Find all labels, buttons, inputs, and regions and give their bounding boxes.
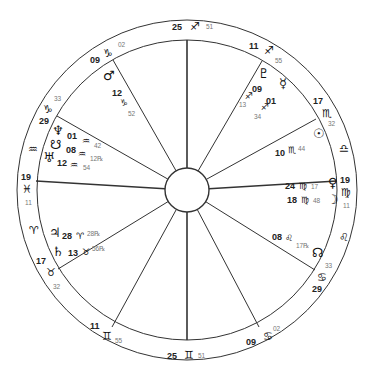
cusp-3-line bbox=[197, 209, 259, 327]
cusp-3-minutes: 02 bbox=[273, 325, 281, 332]
natal-chart-wheel: 25♐︎5111♐︎5517♏︎3219♍︎1129♋︎3309♋︎0225♊︎… bbox=[0, 0, 368, 382]
cusp-11-minutes: 55 bbox=[275, 57, 283, 64]
cusp-6-degree: 17 bbox=[36, 256, 46, 266]
pluto-icon: ♇︎ bbox=[258, 66, 270, 81]
cusp-5-minutes: 55 bbox=[115, 337, 123, 344]
cusp-9-line bbox=[113, 60, 176, 171]
north-node-south-sign-icon: ♒︎ bbox=[78, 149, 86, 159]
cusp-10-minutes: 51 bbox=[206, 23, 214, 30]
north-node-south-minutes: 12℞ bbox=[90, 155, 103, 162]
cusp-2-degree: 29 bbox=[312, 284, 322, 294]
moon-sign-icon: ♍︎ bbox=[301, 195, 309, 205]
neptune-minutes: 42 bbox=[94, 142, 102, 149]
cusp-2-line bbox=[206, 202, 315, 270]
north-node-south-degree: 08 bbox=[66, 145, 76, 155]
cusp-3-sign-icon: ♋︎ bbox=[263, 330, 273, 343]
cusp-3-degree: 09 bbox=[246, 337, 256, 347]
sun-sign-icon: ♏︎ bbox=[288, 145, 296, 155]
cusp-2-sign-icon: ♋︎ bbox=[317, 271, 327, 284]
cusp-12-minutes: 32 bbox=[328, 120, 336, 127]
cusp-11-sign-icon: ♐︎ bbox=[264, 44, 274, 57]
cusp-1-sign-icon: ♍︎ bbox=[341, 186, 351, 199]
jupiter-icon: ♃︎ bbox=[49, 225, 61, 240]
cusp-10-sign-icon: ♐︎ bbox=[190, 20, 200, 33]
cusp-8-minutes: 33 bbox=[54, 95, 62, 102]
jupiter-sign-icon: ♈︎ bbox=[76, 231, 84, 241]
sun-icon: ☉︎ bbox=[313, 126, 325, 141]
cusp-8-degree: 29 bbox=[39, 116, 49, 126]
mars-minutes: 52 bbox=[128, 110, 136, 117]
neptune-sign-icon: ♒︎ bbox=[82, 136, 90, 146]
neptune-degree: 01 bbox=[67, 131, 77, 141]
cusp-6-sign-icon: ♉︎ bbox=[46, 266, 56, 279]
venus-degree: 24 bbox=[285, 181, 295, 191]
cusp-9-minutes: 02 bbox=[118, 41, 126, 48]
libra-ring-icon: ♎︎ bbox=[339, 142, 349, 155]
sun-minutes: 44 bbox=[298, 145, 306, 152]
mars-sign-icon: ♑︎ bbox=[120, 98, 128, 108]
cusp-5-degree: 11 bbox=[90, 321, 100, 331]
leo-ring-icon: ♌︎ bbox=[339, 231, 349, 244]
north-node-icon: ☊︎ bbox=[312, 245, 324, 260]
cusp-7-degree: 19 bbox=[21, 172, 31, 182]
cusp-7-sign-icon: ♓︎ bbox=[22, 183, 32, 196]
uranus-icon: ♅︎ bbox=[43, 150, 55, 165]
cusp-9-degree: 09 bbox=[90, 55, 100, 65]
cusp-1-degree: 19 bbox=[340, 175, 350, 185]
cusp-6-line bbox=[58, 201, 168, 269]
cusp-4-sign-icon: ♊︎ bbox=[184, 349, 194, 362]
cusp-4-minutes: 51 bbox=[198, 352, 206, 359]
moon-degree: 18 bbox=[287, 195, 297, 205]
north-node-minutes: 17℞ bbox=[296, 242, 309, 249]
center-hub bbox=[165, 168, 209, 212]
pluto-minutes: 13 bbox=[239, 101, 247, 108]
planet-glyphs: ♂︎12♑︎52♆︎01♒︎42☋︎08♒︎12℞♅︎12♒︎54♇︎09♐︎1… bbox=[43, 66, 339, 260]
cusp-4-degree: 25 bbox=[167, 351, 177, 361]
north-node-degree: 08 bbox=[272, 232, 282, 242]
sun-degree: 10 bbox=[275, 148, 285, 158]
moon-icon: ☽︎ bbox=[327, 192, 339, 207]
uranus-degree: 12 bbox=[57, 158, 67, 168]
moon-minutes: 48 bbox=[313, 197, 321, 204]
cusp-5-line bbox=[112, 209, 176, 327]
cusp-12-sign-icon: ♏︎ bbox=[322, 107, 332, 120]
saturn-sign-icon: ♉︎ bbox=[82, 247, 90, 257]
venus-icon: ♀︎ bbox=[328, 175, 338, 190]
saturn-icon: ♄︎ bbox=[52, 244, 64, 259]
mercury-minutes: 34 bbox=[254, 113, 262, 120]
cusp-10-degree: 25 bbox=[172, 22, 182, 32]
cusp-5-sign-icon: ♊︎ bbox=[102, 330, 112, 343]
cusp-9-sign-icon: ♑︎ bbox=[103, 47, 113, 60]
cusp-1-minutes: 11 bbox=[343, 202, 350, 209]
mars-degree: 12 bbox=[112, 88, 122, 98]
mercury-icon: ☿︎ bbox=[279, 76, 287, 91]
cusp-7-minutes: 11 bbox=[25, 199, 32, 206]
cusp-2-minutes: 33 bbox=[325, 262, 333, 269]
cusp-11-degree: 11 bbox=[249, 41, 259, 51]
cusp-7-line bbox=[36, 181, 165, 189]
saturn-minutes: 56℞ bbox=[92, 245, 105, 252]
aquarius-ring-icon: ♒︎ bbox=[28, 143, 38, 156]
venus-minutes: 17 bbox=[311, 183, 319, 190]
jupiter-minutes: 28℞ bbox=[87, 230, 100, 237]
cusp-12-degree: 17 bbox=[313, 96, 323, 106]
mercury-sign-icon: ♐︎ bbox=[261, 102, 269, 112]
uranus-minutes: 54 bbox=[83, 164, 91, 171]
jupiter-degree: 28 bbox=[62, 231, 72, 241]
cusp-6-minutes: 32 bbox=[53, 283, 61, 290]
cusp-8-sign-icon: ♑︎ bbox=[43, 103, 53, 116]
pluto-degree: 09 bbox=[252, 84, 262, 94]
venus-sign-icon: ♍︎ bbox=[299, 181, 307, 191]
aries-ring-icon: ♈︎ bbox=[29, 224, 39, 237]
pluto-sign-icon: ♐︎ bbox=[245, 91, 253, 101]
uranus-sign-icon: ♒︎ bbox=[70, 160, 78, 170]
mars-icon: ♂︎ bbox=[103, 68, 115, 83]
neptune-icon: ♆︎ bbox=[52, 123, 64, 138]
north-node-sign-icon: ♌︎ bbox=[285, 233, 293, 243]
saturn-degree: 13 bbox=[68, 248, 78, 258]
